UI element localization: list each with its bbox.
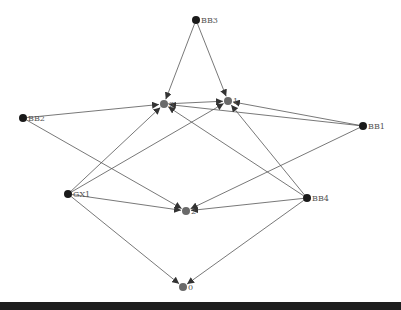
- node-circle-icon[interactable]: [19, 114, 27, 122]
- node-label: 0: [188, 283, 193, 292]
- node-label: GX1: [73, 190, 90, 199]
- node-circle-icon[interactable]: [179, 283, 187, 291]
- edge-GX1-to-3: [71, 107, 160, 191]
- edge-BB1-to-2: [191, 128, 360, 209]
- node-circle-icon[interactable]: [359, 122, 367, 130]
- edge-BB3-to-1: [197, 24, 226, 97]
- node-circle-icon[interactable]: [224, 97, 232, 105]
- node-BB3[interactable]: BB3: [192, 16, 218, 25]
- edge-GX1-to-0: [71, 197, 179, 284]
- node-2[interactable]: 2: [182, 207, 196, 216]
- node-0[interactable]: 0: [179, 283, 193, 292]
- nodes-layer: BB331BB2BB1GX12BB40: [19, 16, 385, 292]
- edges-layer: [26, 24, 359, 284]
- node-3[interactable]: 3: [160, 100, 174, 109]
- node-label: BB2: [28, 114, 45, 123]
- node-circle-icon[interactable]: [64, 190, 72, 198]
- edge-BB4-to-0: [187, 200, 304, 284]
- node-BB4[interactable]: BB4: [303, 194, 329, 203]
- node-circle-icon[interactable]: [303, 194, 311, 202]
- node-label: BB3: [201, 16, 218, 25]
- edge-BB3-to-3: [166, 24, 195, 100]
- edge-BB2-to-3: [27, 104, 159, 117]
- node-BB2[interactable]: BB2: [19, 114, 45, 123]
- bottom-bar: [0, 302, 401, 310]
- node-label: 2: [191, 207, 196, 216]
- node-label: 1: [233, 97, 238, 106]
- node-circle-icon[interactable]: [182, 207, 190, 215]
- node-label: BB1: [368, 122, 385, 131]
- node-BB1[interactable]: BB1: [359, 122, 385, 131]
- node-circle-icon[interactable]: [160, 100, 168, 108]
- node-label: BB4: [312, 194, 329, 203]
- graph-canvas: BB331BB2BB1GX12BB40: [0, 0, 401, 302]
- edge-BB2-to-2: [26, 120, 181, 209]
- node-GX1[interactable]: GX1: [64, 190, 90, 199]
- edge-GX1-to-1: [71, 104, 223, 192]
- node-label: 3: [169, 100, 174, 109]
- node-circle-icon[interactable]: [192, 16, 200, 24]
- edge-3-to-1: [168, 101, 223, 104]
- node-1[interactable]: 1: [224, 97, 238, 106]
- edge-BB4-to-3: [168, 107, 303, 196]
